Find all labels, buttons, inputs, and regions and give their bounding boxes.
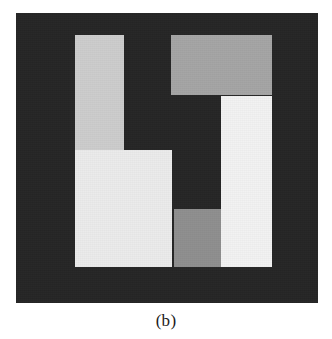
region-bottom-middle-block	[174, 209, 221, 267]
figure-caption: (b)	[0, 311, 332, 331]
region-upper-left-column	[75, 35, 124, 163]
figure-container: (b)	[0, 0, 332, 339]
region-lower-left-block	[75, 150, 172, 267]
region-right-column	[221, 96, 272, 267]
segmented-image-canvas	[16, 13, 318, 303]
region-upper-right-block	[171, 35, 272, 95]
